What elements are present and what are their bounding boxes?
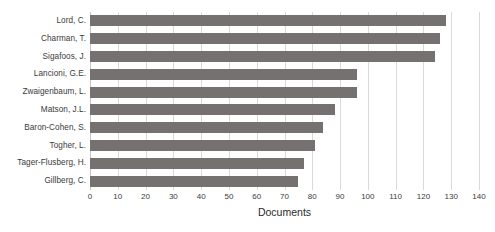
bar-series bbox=[90, 12, 479, 190]
category-label: Matson, J.L. bbox=[0, 105, 86, 115]
x-tick-label: 10 bbox=[113, 192, 122, 201]
x-tick-label: 70 bbox=[280, 192, 289, 201]
bar-row[interactable] bbox=[90, 119, 479, 137]
category-label: Baron-Cohen, S. bbox=[0, 123, 86, 133]
bar[interactable] bbox=[90, 33, 440, 44]
bar-row[interactable] bbox=[90, 83, 479, 101]
bar-row[interactable] bbox=[90, 65, 479, 83]
bar-chart: Lord, C.Charman, T.Sigafoos, J.Lancioni,… bbox=[0, 0, 495, 232]
bar-row[interactable] bbox=[90, 48, 479, 66]
x-tick-label: 140 bbox=[472, 192, 485, 201]
bar[interactable] bbox=[90, 104, 335, 115]
category-label: Tager-Flusberg, H. bbox=[0, 158, 86, 168]
bar[interactable] bbox=[90, 15, 446, 26]
x-tick-label: 20 bbox=[141, 192, 150, 201]
category-label: Zwaigenbaum, L. bbox=[0, 87, 86, 97]
category-label: Gillberg, C. bbox=[0, 176, 86, 186]
bar-row[interactable] bbox=[90, 101, 479, 119]
x-tick-label: 120 bbox=[417, 192, 430, 201]
category-label: Togher, L. bbox=[0, 141, 86, 151]
bar[interactable] bbox=[90, 87, 357, 98]
bar-row[interactable] bbox=[90, 137, 479, 155]
x-tick-label: 0 bbox=[88, 192, 92, 201]
bar[interactable] bbox=[90, 69, 357, 80]
plot-area bbox=[90, 12, 479, 190]
bar[interactable] bbox=[90, 122, 323, 133]
category-label: Sigafoos, J. bbox=[0, 52, 86, 62]
x-axis-tick-labels: 0102030405060708090100110120130140 bbox=[90, 192, 479, 204]
x-tick-label: 110 bbox=[389, 192, 402, 201]
x-tick-label: 130 bbox=[445, 192, 458, 201]
x-axis-title: Documents bbox=[90, 206, 479, 218]
x-tick-label: 90 bbox=[336, 192, 345, 201]
bar[interactable] bbox=[90, 51, 435, 62]
gridline-140 bbox=[479, 12, 480, 190]
bar[interactable] bbox=[90, 158, 304, 169]
category-label: Lord, C. bbox=[0, 16, 86, 26]
bar-row[interactable] bbox=[90, 12, 479, 30]
category-axis-labels: Lord, C.Charman, T.Sigafoos, J.Lancioni,… bbox=[0, 12, 86, 190]
category-label: Lancioni, G.E. bbox=[0, 69, 86, 79]
x-tick-label: 100 bbox=[361, 192, 374, 201]
x-tick-label: 60 bbox=[252, 192, 261, 201]
bar-row[interactable] bbox=[90, 30, 479, 48]
bar-row[interactable] bbox=[90, 154, 479, 172]
x-tick-label: 30 bbox=[169, 192, 178, 201]
category-label: Charman, T. bbox=[0, 34, 86, 44]
bar-row[interactable] bbox=[90, 172, 479, 190]
bar[interactable] bbox=[90, 176, 298, 187]
bar[interactable] bbox=[90, 140, 315, 151]
x-tick-label: 50 bbox=[224, 192, 233, 201]
x-tick-label: 40 bbox=[197, 192, 206, 201]
x-tick-label: 80 bbox=[308, 192, 317, 201]
